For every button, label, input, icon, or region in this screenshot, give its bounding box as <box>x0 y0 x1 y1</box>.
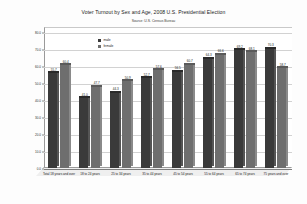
bar-group: 69.268.165 to 74 years <box>234 50 257 168</box>
bar-group: 44.350.925 to 34 years <box>110 81 133 168</box>
bar-body <box>153 70 164 168</box>
bar-male[interactable]: 56.5 <box>172 72 183 168</box>
bar-value-label: 68.1 <box>249 47 255 51</box>
x-axis-label: 18 to 24 years <box>80 172 100 176</box>
bar-value-label: 50.9 <box>125 76 131 80</box>
bar-female[interactable]: 47.7 <box>91 87 102 168</box>
bar-face <box>246 52 255 168</box>
bar-side-3d <box>162 68 164 166</box>
bar-female[interactable]: 50.9 <box>122 81 133 168</box>
legend-swatch-female <box>98 45 101 48</box>
chart-title: Voter Turnout by Sex and Age, 2008 U.S. … <box>0 9 307 15</box>
bar-body <box>110 93 121 168</box>
bar-face <box>60 65 69 168</box>
bar-female[interactable]: 68.1 <box>246 52 257 168</box>
bar-female[interactable]: 60.4 <box>60 65 71 168</box>
legend-label-female: female <box>103 44 113 50</box>
bar-body <box>122 81 133 168</box>
bar-value-label: 57.6 <box>156 65 162 69</box>
bar-body <box>48 73 59 168</box>
bar-face <box>91 87 100 168</box>
bar-side-3d <box>150 76 152 166</box>
bar-value-label: 55.7 <box>51 68 57 72</box>
bar-face <box>184 65 193 168</box>
bar-face <box>172 72 181 168</box>
bar-value-label: 44.3 <box>113 87 119 91</box>
bar-body <box>60 65 71 168</box>
bar-side-3d <box>255 50 257 166</box>
bar-body <box>246 52 257 168</box>
y-tick-mark <box>42 84 44 85</box>
x-axis-label: Total 18 years and over <box>43 172 75 176</box>
bar-value-label: 47.7 <box>94 81 100 85</box>
bar-body <box>184 65 195 168</box>
bar-body <box>203 59 214 168</box>
bar-male[interactable]: 52.7 <box>141 78 152 168</box>
bar-side-3d <box>274 47 276 167</box>
bar-group: 64.366.655 to 64 years <box>203 55 226 168</box>
axis-baseline <box>44 169 292 170</box>
y-tick-mark <box>42 67 44 68</box>
y-tick-mark <box>42 135 44 136</box>
bar-side-3d <box>119 91 121 166</box>
bar-face <box>79 98 88 168</box>
bar-body <box>265 49 276 169</box>
legend-item-female: female <box>98 44 113 50</box>
bar-face <box>265 49 274 169</box>
y-tick-mark <box>42 169 44 170</box>
bar-side-3d <box>88 96 90 166</box>
bar-face <box>153 70 162 168</box>
bar-body <box>215 55 226 168</box>
bar-female[interactable]: 60.7 <box>184 65 195 168</box>
bar-female[interactable]: 57.6 <box>153 70 164 168</box>
bar-male[interactable]: 64.3 <box>203 59 214 168</box>
bar-male[interactable]: 55.7 <box>48 73 59 168</box>
chart-container: Voter Turnout by Sex and Age, 2008 U.S. … <box>0 0 307 204</box>
bar-face <box>48 73 57 168</box>
bar-face <box>110 93 119 168</box>
bar-side-3d <box>193 63 195 166</box>
legend-swatch-male <box>98 39 101 42</box>
bar-male[interactable]: 41.0 <box>79 98 90 168</box>
bar-side-3d <box>100 85 102 166</box>
bar-male[interactable]: 69.2 <box>234 50 245 168</box>
bar-side-3d <box>181 70 183 166</box>
x-axis-label: 55 to 64 years <box>204 172 224 176</box>
bar-male[interactable]: 44.3 <box>110 93 121 168</box>
bar-value-label: 56.5 <box>175 66 181 70</box>
bar-body <box>141 78 152 168</box>
bar-face <box>277 68 286 168</box>
bar-side-3d <box>57 71 59 166</box>
bar-body <box>79 98 90 168</box>
bar-side-3d <box>243 48 245 166</box>
bar-male[interactable]: 70.3 <box>265 49 276 169</box>
x-axis-label: 35 to 44 years <box>142 172 162 176</box>
bar-body <box>172 72 183 168</box>
bar-side-3d <box>224 53 226 166</box>
bar-group: 41.047.718 to 24 years <box>79 87 102 168</box>
bar-female[interactable]: 58.7 <box>277 68 288 168</box>
bar-body <box>277 68 288 168</box>
x-axis-label: 65 to 74 years <box>235 172 255 176</box>
gridline <box>44 33 292 34</box>
bar-side-3d <box>286 66 288 166</box>
y-tick-mark <box>42 118 44 119</box>
bar-value-label: 70.3 <box>268 43 274 47</box>
y-tick-mark <box>42 33 44 34</box>
bar-face <box>203 59 212 168</box>
bar-value-label: 69.2 <box>237 45 243 49</box>
bar-value-label: 66.6 <box>218 49 224 53</box>
bar-group: 55.760.4Total 18 years and over <box>48 65 71 168</box>
bar-body <box>91 87 102 168</box>
x-axis-label: 75 years and over <box>264 172 289 176</box>
chart-legend: male female <box>98 38 113 49</box>
bar-face <box>234 50 243 168</box>
bar-value-label: 58.7 <box>280 63 286 67</box>
bar-female[interactable]: 66.6 <box>215 55 226 168</box>
bar-group: 52.757.635 to 44 years <box>141 70 164 168</box>
x-axis-label: 25 to 34 years <box>111 172 131 176</box>
bar-side-3d <box>131 79 133 166</box>
bar-value-label: 64.3 <box>206 53 212 57</box>
bar-value-label: 41.0 <box>82 93 88 97</box>
chart-subtitle: Source: U.S. Census Bureau <box>0 19 307 23</box>
